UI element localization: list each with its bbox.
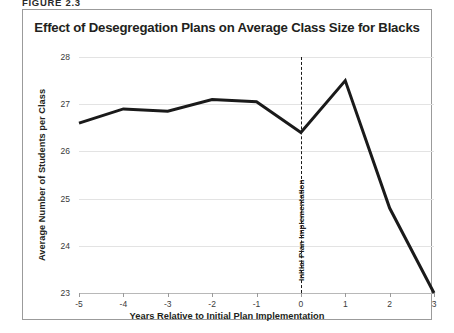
y-axis-title-text: Average Number of Students per Class (37, 89, 47, 261)
x-tick-mark-3 (212, 293, 213, 297)
x-tick-label-8: 3 (432, 299, 437, 309)
x-tick-label-3: -2 (208, 299, 216, 309)
series-line-chart (79, 57, 434, 293)
figure-number-label: FIGURE 2.3 (22, 0, 81, 8)
x-tick-label-4: -1 (253, 299, 261, 309)
x-tick-label-5: 0 (299, 299, 304, 309)
y-tick-label-24: 24 (61, 241, 70, 251)
x-tick-label-0: -5 (75, 299, 83, 309)
x-tick-mark-6 (345, 293, 346, 297)
y-tick-label-23: 23 (61, 288, 70, 298)
x-tick-label-2: -3 (164, 299, 172, 309)
chart-frame: Effect of Desegregation Plans on Average… (22, 9, 432, 320)
chart-title: Effect of Desegregation Plans on Average… (23, 20, 431, 35)
series-polyline (79, 81, 434, 293)
x-axis-title-text: Years Relative to Initial Plan Implement… (130, 311, 325, 321)
x-tick-mark-5 (301, 293, 302, 297)
x-tick-mark-8 (434, 293, 435, 297)
y-tick-label-28: 28 (61, 52, 70, 62)
x-tick-mark-1 (123, 293, 124, 297)
x-tick-label-6: 1 (343, 299, 348, 309)
x-tick-label-1: -4 (120, 299, 128, 309)
plot-area: 282726252423 -5-4-3-2-10123 Initial Plan… (79, 57, 434, 293)
x-tick-mark-2 (168, 293, 169, 297)
y-tick-label-26: 26 (61, 146, 70, 156)
y-axis-title: Average Number of Students per Class (34, 57, 50, 293)
x-tick-mark-7 (390, 293, 391, 297)
x-tick-mark-4 (257, 293, 258, 297)
y-tick-label-27: 27 (61, 99, 70, 109)
x-tick-mark-0 (79, 293, 80, 297)
y-tick-label-25: 25 (61, 194, 70, 204)
x-tick-label-7: 2 (387, 299, 392, 309)
x-axis-title: Years Relative to Initial Plan Implement… (23, 311, 431, 321)
